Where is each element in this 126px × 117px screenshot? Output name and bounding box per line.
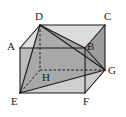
face-fills	[20, 25, 105, 93]
geometry-figure: A B C D E F G H	[0, 0, 126, 117]
vertex-label-C: C	[104, 11, 111, 22]
vertex-label-H: H	[42, 72, 50, 83]
vertex-label-G: G	[108, 65, 116, 76]
vertex-label-A: A	[7, 41, 15, 52]
vertex-label-B: B	[87, 41, 94, 52]
vertex-label-E: E	[11, 96, 18, 107]
vertex-label-F: F	[83, 96, 89, 107]
vertex-label-D: D	[35, 11, 43, 22]
